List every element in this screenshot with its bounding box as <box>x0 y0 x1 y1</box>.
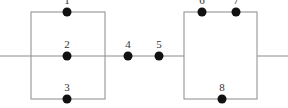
node-5: 5 <box>155 38 164 61</box>
network-diagram: 1 2 3 4 5 6 7 8 <box>0 0 288 108</box>
node-dot <box>198 8 207 17</box>
node-2: 2 <box>63 38 72 61</box>
node-label: 8 <box>219 81 225 93</box>
node-label: 6 <box>199 0 205 6</box>
node-label: 2 <box>64 38 70 50</box>
node-dot <box>155 52 164 61</box>
node-dot <box>124 52 133 61</box>
node-dot <box>232 8 241 17</box>
node-3: 3 <box>63 81 72 104</box>
node-6: 6 <box>198 0 207 17</box>
node-7: 7 <box>232 0 241 17</box>
node-dot <box>218 95 227 104</box>
node-label: 1 <box>64 0 70 6</box>
node-8: 8 <box>218 81 227 104</box>
node-label: 5 <box>156 38 162 50</box>
node-dot <box>63 95 72 104</box>
node-label: 7 <box>233 0 239 6</box>
node-dot <box>63 52 72 61</box>
node-1: 1 <box>63 0 72 17</box>
node-dot <box>63 8 72 17</box>
node-4: 4 <box>124 38 133 61</box>
node-label: 3 <box>64 81 70 93</box>
node-label: 4 <box>125 38 131 50</box>
